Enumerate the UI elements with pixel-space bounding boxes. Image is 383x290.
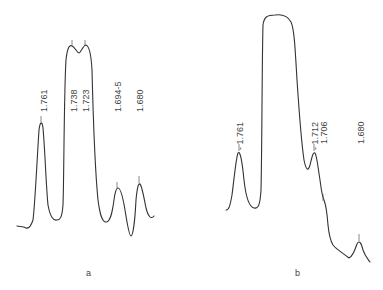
trace-a: 1.761 1.738 1.723 1.694-5 1.680 a [17,40,154,278]
peak-label: 1.680 [135,89,145,112]
trace-b: - 1.761 - 1.712 1.706 1.680 b [226,15,370,278]
peak-label: 1.761 [39,89,49,112]
peak-label: 1.723 [81,89,91,112]
peak-label: - 1.761 [235,122,245,150]
peak-label: 1.680 [356,121,366,144]
panel-label-b: b [295,268,300,278]
peak-label: 1.694-5 [113,81,123,112]
peak-label: 1.706 [319,121,329,144]
panel-label-a: a [86,268,91,278]
peak-label: 1.738 [69,89,79,112]
densitometer-traces: 1.761 1.738 1.723 1.694-5 1.680 a - 1.76… [0,0,383,290]
